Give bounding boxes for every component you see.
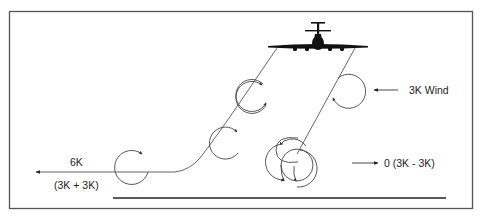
downwind-vortex-label: 6K [70,156,83,168]
vortex-right-cluster-2 [276,138,298,163]
right-wake-trail [297,48,355,154]
vortex-right-cluster-arrow-b [294,166,296,181]
downwind-vortex-formula: (3K + 3K) [54,179,99,191]
vortex-right-cluster-4 [297,150,317,187]
vortex-left-horizontal [115,150,148,184]
airplane-icon [268,22,368,51]
wind-label: 3K Wind [409,84,449,96]
upwind-vortex-label: 0 (3K - 3K) [384,157,435,169]
left-wake-trail [36,48,277,172]
vortex-left-middle [209,127,238,159]
wake-turbulence-diagram: 3K Wind 0 (3K - 3K) 6K (3K + 3K) [0,0,480,224]
